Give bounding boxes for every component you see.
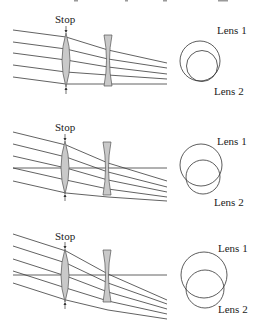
lens-1-aperture-circle [180,41,220,81]
panel-1: Stop Lens 1 Lens 2 [13,13,247,97]
lens-1-label: Lens 1 [218,242,248,254]
vignetting-diagram: Stop Lens 1 Lens 2 Stop Lens 1 Lens 2 [0,0,258,330]
panel-2: Stop Lens 1 Lens 2 [13,121,247,208]
lens-1-biconvex [61,141,69,194]
ray-bundle [13,30,167,84]
lens-2-biconcave [103,142,111,195]
lens-1-label: Lens 1 [217,24,247,36]
lens-1-label: Lens 1 [217,135,247,147]
stop-label: Stop [55,121,76,133]
lens-1-aperture-circle [181,252,227,298]
lens-2-biconcave [104,35,112,86]
lens-2-biconcave [103,250,111,302]
lens-2-label: Lens 2 [218,303,248,315]
lens-2-label: Lens 2 [214,196,244,208]
stop-label: Stop [55,230,76,242]
lens-2-label: Lens 2 [214,85,244,97]
stop-label: Stop [55,13,76,25]
lens-2-aperture-circle [186,160,220,194]
panel-3: Stop Lens 1 Lens 2 [13,230,248,319]
ray-bundle [13,234,167,319]
top-cropped-text [74,0,228,2]
lens-1-biconvex [62,33,70,87]
lens-2-aperture-circle [187,51,218,82]
lens-1-biconvex [61,249,69,302]
ray-bundle [13,132,167,201]
